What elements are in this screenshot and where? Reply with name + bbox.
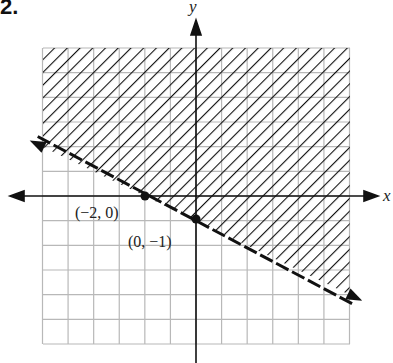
x-axis-left-arrow-icon	[10, 191, 24, 201]
point-label-1: (−2, 0)	[75, 204, 119, 222]
x-axis-label: x	[382, 186, 391, 205]
point-0-neg1	[192, 215, 201, 224]
point-label-2: (0, −1)	[128, 233, 172, 251]
point-neg2-0	[141, 192, 150, 201]
x-axis-right-arrow-icon	[364, 191, 378, 201]
y-axis-arrow-icon	[191, 20, 201, 35]
inequality-graph: (−2, 0) (0, −1) x y	[0, 0, 393, 363]
boundary-left-arrow-icon	[30, 141, 47, 153]
y-axis-label: y	[187, 0, 197, 16]
